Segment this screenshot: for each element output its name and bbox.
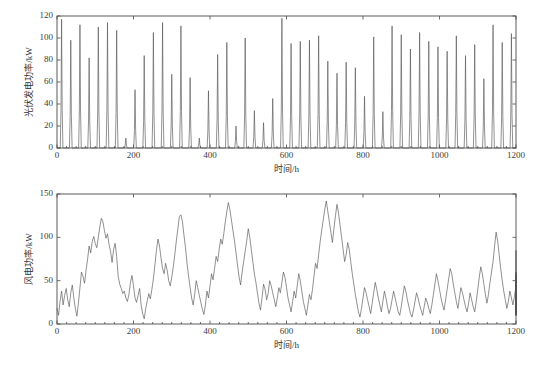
x-tick-label: 1000 <box>431 326 450 336</box>
x-tick-label: 1200 <box>507 150 526 160</box>
plot-frame-rect <box>57 194 516 324</box>
y-tick-label: 0 <box>49 142 54 152</box>
x-tick-label: 0 <box>55 326 60 336</box>
y-tick-label: 100 <box>40 32 54 42</box>
x-tick-label: 800 <box>356 150 370 160</box>
y-tick-label: 40 <box>44 98 54 108</box>
y-tick-label: 0 <box>49 318 54 328</box>
y-tick-label: 60 <box>44 76 54 86</box>
x-tick-label: 600 <box>280 150 294 160</box>
x-tick-label: 0 <box>55 150 60 160</box>
x-tick-label: 1000 <box>431 150 450 160</box>
y-tick-label: 50 <box>44 275 54 285</box>
y-tick-label: 80 <box>44 54 54 64</box>
y-tick-label: 20 <box>44 120 54 130</box>
chart-panel-wind-power: 020040060080010001200050100150 风电功率/kW 时… <box>0 180 543 372</box>
wind-ticks <box>57 194 516 324</box>
pv-x-axis-title: 时间/h <box>274 163 300 174</box>
wind-y-axis-title: 风电功率/kW <box>23 233 34 285</box>
wind-power-svg: 020040060080010001200050100150 风电功率/kW 时… <box>0 180 543 372</box>
y-tick-label: 100 <box>40 231 54 241</box>
x-tick-label: 600 <box>280 326 294 336</box>
x-tick-label: 200 <box>127 150 141 160</box>
figure-canvas: 020040060080010001200020406080100120 光伏发… <box>0 0 543 372</box>
x-tick-label: 800 <box>356 326 370 336</box>
pv-power-svg: 020040060080010001200020406080100120 光伏发… <box>0 0 543 180</box>
wind-power-series <box>57 201 516 319</box>
wind-plot-frame <box>57 194 516 324</box>
y-tick-label: 120 <box>40 10 54 20</box>
y-tick-label: 150 <box>40 188 54 198</box>
x-tick-label: 200 <box>127 326 141 336</box>
chart-panel-pv-power: 020040060080010001200020406080100120 光伏发… <box>0 0 543 180</box>
pv-power-series <box>57 18 516 148</box>
x-tick-label: 1200 <box>507 326 526 336</box>
wind-x-axis-title: 时间/h <box>274 339 300 350</box>
x-tick-label: 400 <box>203 326 217 336</box>
x-tick-label: 400 <box>203 150 217 160</box>
pv-y-axis-title: 光伏发电功率/kW <box>23 47 34 117</box>
